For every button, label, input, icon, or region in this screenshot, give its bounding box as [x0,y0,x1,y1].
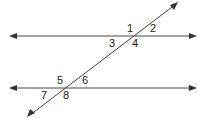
arrowhead-right-icon [189,33,197,39]
arrowhead-left-icon [9,85,17,91]
transversal-line [27,2,178,117]
arrowhead-up-icon [170,2,178,10]
angle-label-2: 2 [150,22,156,34]
angle-label-4: 4 [132,37,138,49]
arrowhead-right-icon [189,85,197,91]
angle-label-6: 6 [82,74,88,86]
angle-label-3: 3 [109,37,115,49]
top-parallel-line [9,33,197,39]
angle-label-5: 5 [57,74,63,86]
geometry-diagram: 1 2 3 4 5 6 7 8 [0,0,202,118]
angle-label-8: 8 [63,89,69,101]
angle-label-7: 7 [41,89,47,101]
angle-label-1: 1 [127,22,133,34]
arrowhead-down-icon [27,109,35,117]
bottom-parallel-line [9,85,197,91]
arrowhead-left-icon [9,33,17,39]
